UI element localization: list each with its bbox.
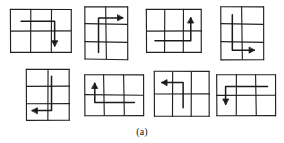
grid-lines <box>85 75 144 116</box>
grid-figure-4 <box>220 6 264 60</box>
arrow-path-up-then-right <box>99 15 123 52</box>
grid-lines <box>26 69 69 120</box>
arrow-path-down-then-left <box>32 76 51 113</box>
arrow-path-left-then-up <box>92 83 134 102</box>
grid-lines <box>85 7 128 60</box>
grid-lines <box>146 9 201 52</box>
figure-caption: (a) <box>0 126 284 137</box>
arrowhead-left <box>162 80 167 86</box>
grid-figure-1 <box>10 9 72 53</box>
grid-figure-5 <box>26 69 70 121</box>
arrowhead-right <box>118 15 123 21</box>
arrowhead-up <box>92 83 98 88</box>
arrowhead-down <box>52 41 58 46</box>
grid-figure-8 <box>216 74 276 116</box>
grid-lines <box>10 9 71 52</box>
grid-figure-6 <box>84 74 144 116</box>
grid-figure-7 <box>154 71 210 117</box>
figure-panel: (a) <box>0 0 284 143</box>
arrow-path-right-then-down <box>21 21 57 46</box>
grid-figure-3 <box>146 9 202 53</box>
arrowhead-left <box>32 108 37 114</box>
arrowhead-up <box>188 18 194 23</box>
arrowhead-right <box>249 47 254 53</box>
grid-lines <box>154 71 209 116</box>
arrowhead-down <box>223 99 229 104</box>
arrow-path-down-then-right <box>232 15 254 54</box>
grid-lines <box>221 7 264 60</box>
arrow-path-right-then-up <box>155 18 194 41</box>
grid-figure-2 <box>84 6 128 60</box>
